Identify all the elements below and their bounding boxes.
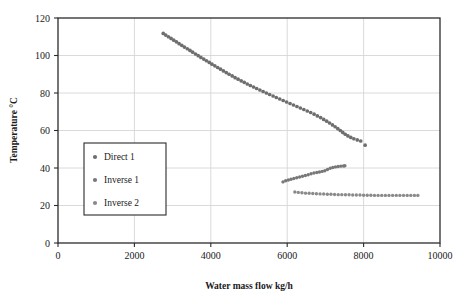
data-point [274,96,278,100]
chart-figure: 0200040006000800010000 020406080100120 W… [0,0,466,297]
data-point [281,99,285,103]
temperature-vs-water-mass-flow-chart: 0200040006000800010000 020406080100120 W… [0,0,466,297]
data-point [373,194,376,197]
data-point [384,194,387,197]
data-point [293,190,296,193]
y-tick-label: 40 [40,163,50,174]
y-tick-label: 80 [40,88,50,99]
data-point [326,193,329,196]
x-tick-label: 10000 [428,250,453,261]
data-point [344,193,347,196]
data-point [298,175,301,178]
data-point [255,87,259,91]
data-point [369,193,372,196]
y-tick-label: 100 [35,50,50,61]
data-point [376,194,379,197]
data-point [329,193,332,196]
data-point [299,106,303,110]
data-point [337,193,340,196]
chart-background [0,0,466,297]
legend-label-2: Inverse 1 [104,175,139,185]
data-point [318,192,321,195]
data-point [387,194,390,197]
data-point [295,105,299,109]
y-tick-label: 60 [40,125,50,136]
data-point [402,194,405,197]
x-tick-label: 4000 [201,250,221,261]
data-point [265,91,269,95]
data-point [315,192,318,195]
data-point [307,192,310,195]
data-point [312,171,315,174]
data-point [362,193,365,196]
y-axis-title: Temperature °C [9,97,19,163]
x-tick-label: 6000 [277,250,297,261]
data-point [261,90,265,94]
data-point [355,193,358,196]
data-point [302,108,306,112]
data-point [398,194,401,197]
data-point [297,191,300,194]
data-point [366,193,369,196]
data-point [380,194,383,197]
data-point [304,191,307,194]
data-point [413,194,416,197]
data-point [292,177,295,180]
data-point [278,97,282,101]
data-point [258,88,262,92]
data-point [289,178,292,181]
chart-legend: Direct 1Inverse 1Inverse 2 [84,143,166,215]
data-point [305,109,309,113]
data-point [312,112,316,116]
data-point [405,194,408,197]
data-point [351,193,354,196]
legend-marker-3 [93,201,97,205]
data-point [292,103,296,107]
x-tick-label: 0 [56,250,61,261]
data-point [288,102,292,106]
legend-label-1: Direct 1 [104,152,135,162]
data-point [352,137,356,141]
data-point [300,191,303,194]
data-point [359,139,363,143]
data-point [333,193,336,196]
data-point [358,193,361,196]
data-point [271,94,275,98]
data-point [309,111,313,115]
data-point [295,176,298,179]
data-point [363,143,367,147]
x-tick-label: 2000 [124,250,144,261]
y-tick-label: 120 [35,13,50,24]
data-point [285,100,289,104]
legend-marker-2 [93,178,97,182]
data-point [268,93,272,97]
x-tick-label: 8000 [354,250,374,261]
data-point [304,174,307,177]
data-point [316,114,320,118]
data-point [301,175,304,178]
data-point [340,193,343,196]
legend-label-3: Inverse 2 [104,198,139,208]
data-point [322,192,325,195]
data-point [311,192,314,195]
y-tick-label: 0 [45,238,50,249]
data-point [248,84,252,88]
y-tick-label: 20 [40,200,50,211]
data-point [391,194,394,197]
data-point [309,172,312,175]
data-point [355,138,359,142]
data-point [416,194,419,197]
data-point [347,193,350,196]
legend-marker-1 [93,155,97,159]
data-point [409,194,412,197]
data-point [395,194,398,197]
x-axis-title: Water mass flow kg/h [205,281,293,291]
data-point [343,164,346,167]
